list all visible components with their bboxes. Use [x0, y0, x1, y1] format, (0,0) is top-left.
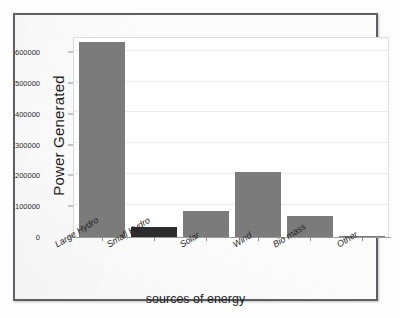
y-tick-mark [68, 206, 73, 207]
y-tick-mark [68, 113, 73, 114]
y-tick-mark [68, 175, 73, 176]
x-tick-mark [102, 237, 103, 241]
y-axis-title: Power Generated [50, 56, 67, 216]
x-tick-mark [206, 237, 207, 241]
y-tick-mark [68, 144, 73, 145]
y-tick-mark [68, 52, 73, 53]
y-tick-label: 100000 [0, 202, 40, 211]
x-axis-title: sources of energy [15, 292, 376, 306]
x-tick-mark [362, 237, 363, 241]
y-tick-mark [68, 83, 73, 84]
y-tick-label: 600000 [0, 48, 40, 57]
chart-figure: Power Generated 0 10000 [0, 0, 400, 318]
y-tick-label: 200000 [0, 171, 40, 180]
bar-wind[interactable] [235, 172, 281, 237]
y-tick-label: 0 [0, 233, 40, 242]
x-tick-mark [154, 237, 155, 241]
y-tick-label: 400000 [0, 109, 40, 118]
x-tick-mark [258, 237, 259, 241]
x-tick-mark [310, 237, 311, 241]
y-tick-label: 500000 [0, 79, 40, 88]
figure-border: Power Generated 0 10000 [13, 13, 378, 301]
bar-series [73, 37, 389, 237]
y-tick-label: 300000 [0, 140, 40, 149]
bar-large-hydro[interactable] [79, 42, 125, 237]
